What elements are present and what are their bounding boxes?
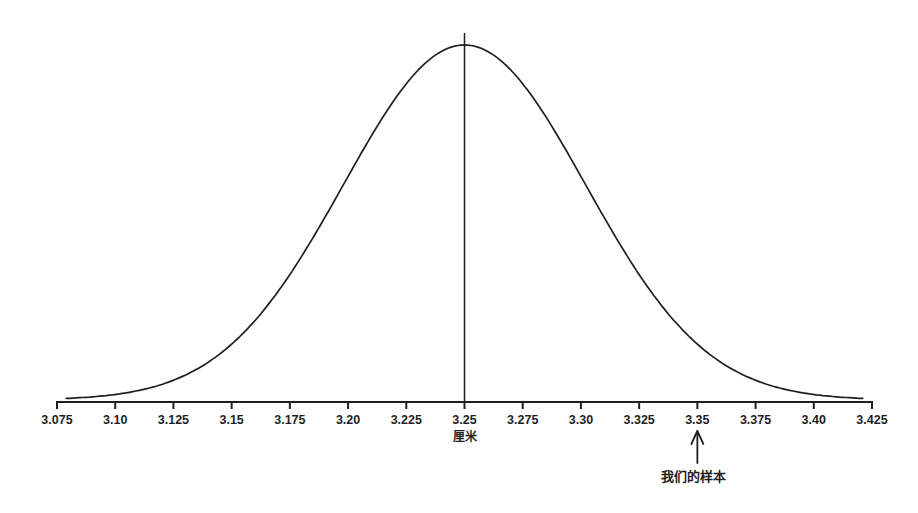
sample-annotation-label: 我们的样本 xyxy=(661,469,726,484)
sample-annotation: 我们的样本 xyxy=(661,431,726,484)
arrow-head-right xyxy=(697,431,703,444)
x-tick-labels: 3.0753.103.1253.153.1753.203.2253.253.27… xyxy=(41,413,887,427)
x-tick-label: 3.075 xyxy=(41,413,72,427)
x-tick-label: 3.125 xyxy=(158,413,189,427)
x-tick-label: 3.30 xyxy=(569,413,593,427)
x-tick-label: 3.10 xyxy=(103,413,127,427)
x-tick-label: 3.275 xyxy=(507,413,538,427)
x-tick-label: 3.35 xyxy=(685,413,709,427)
x-tick-label: 3.225 xyxy=(391,413,422,427)
x-tick-label: 3.40 xyxy=(802,413,826,427)
x-tick-label: 3.25 xyxy=(452,413,476,427)
x-tick-label: 3.325 xyxy=(624,413,655,427)
x-tick-label: 3.375 xyxy=(740,413,771,427)
x-ticks xyxy=(57,402,872,409)
x-tick-label: 3.425 xyxy=(856,413,887,427)
scanned-figure-page: 3.0753.103.1253.153.1753.203.2253.253.27… xyxy=(0,0,918,513)
up-arrow-icon xyxy=(691,431,703,463)
x-tick-label: 3.20 xyxy=(336,413,360,427)
distribution-chart: 3.0753.103.1253.153.1753.203.2253.253.27… xyxy=(0,0,918,513)
x-tick-label: 3.175 xyxy=(274,413,305,427)
x-axis-label: 厘米 xyxy=(453,429,478,444)
x-tick-label: 3.15 xyxy=(219,413,243,427)
